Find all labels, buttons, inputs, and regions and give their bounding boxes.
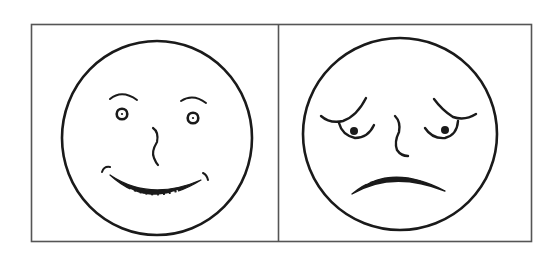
sad-face-outline [303, 38, 497, 230]
right-pupil [441, 126, 449, 134]
happy-face-icon [62, 41, 252, 235]
left-dimple [102, 167, 110, 172]
smile-mouth [110, 175, 201, 196]
left-eyebrow [321, 98, 366, 122]
nose [153, 128, 158, 165]
right-eyebrow [181, 97, 206, 103]
right-eyebrow [434, 99, 476, 118]
frown-mouth [352, 175, 445, 194]
left-pupil [350, 127, 358, 135]
faces-figure [0, 0, 559, 257]
left-eyebrow [110, 94, 137, 100]
sad-face-icon [303, 38, 497, 230]
nose [395, 116, 408, 156]
right-dimple [203, 173, 208, 180]
